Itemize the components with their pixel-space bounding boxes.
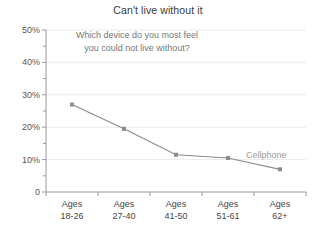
x-axis-tick-label-line: 41-50	[164, 211, 187, 223]
x-axis-tick-label: Ages62+	[270, 199, 291, 222]
x-axis-tick-label-line: Ages	[164, 199, 187, 211]
x-axis-tick-label: Ages18-26	[60, 199, 83, 222]
series-label-cellphone: Cellphone	[246, 150, 287, 160]
chart-container: Can't live without it Which device do yo…	[0, 0, 316, 237]
plot-area	[0, 0, 316, 237]
x-axis-tick-label-line: Ages	[270, 199, 291, 211]
x-axis-tick-label-line: Ages	[60, 199, 83, 211]
x-axis-tick-label-line: Ages	[216, 199, 239, 211]
x-axis-tick-label-line: 51-61	[216, 211, 239, 223]
x-axis-tick-label-line: Ages	[112, 199, 135, 211]
x-axis-tick-label: Ages27-40	[112, 199, 135, 222]
x-axis-tick-label-line: 27-40	[112, 211, 135, 223]
data-point-marker	[226, 156, 230, 160]
data-point-marker	[122, 127, 126, 131]
data-point-marker	[174, 153, 178, 157]
x-axis-tick-label: Ages41-50	[164, 199, 187, 222]
x-axis-tick-label-line: 62+	[270, 211, 291, 223]
x-axis-tick-label: Ages51-61	[216, 199, 239, 222]
x-axis-tick-label-line: 18-26	[60, 211, 83, 223]
data-point-marker	[278, 167, 282, 171]
data-point-marker	[70, 103, 74, 107]
gridlines	[46, 30, 306, 160]
series-markers-cellphone	[70, 103, 282, 172]
x-axis-ticks	[46, 192, 306, 196]
